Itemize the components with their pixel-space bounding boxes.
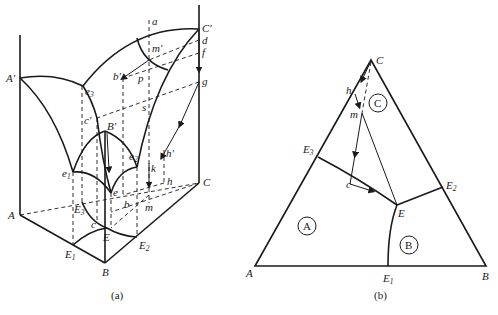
path-h-m (355, 94, 359, 106)
figure-b-labels: C A B h m c E E1 E2 E3 (b) (245, 54, 489, 302)
label-b-E1: E1 (382, 272, 393, 286)
label-b-B: B (482, 270, 489, 282)
label-A: A (7, 209, 15, 221)
tie-m-base (123, 183, 164, 195)
label-hprime: h' (166, 147, 175, 159)
caption-a: (a) (111, 289, 124, 302)
label-E2: E2 (138, 239, 150, 253)
label-bprime: b' (113, 70, 122, 82)
phase-diagram-canvas: A' C' B' a d f g m' b' p s c' h' k h m b… (0, 0, 498, 315)
boundary-E2-E (397, 187, 443, 205)
label-b-h: h (346, 84, 352, 96)
label-b-E2: E2 (445, 179, 457, 193)
path-C-h (362, 63, 370, 80)
label-C: C (203, 176, 211, 188)
label-e1: e1 (62, 167, 71, 181)
region-B-label: B (405, 239, 412, 251)
label-k: k (151, 162, 157, 174)
label-b: b (124, 198, 130, 210)
curve-Aprime-e1 (20, 78, 73, 172)
label-b-E3: E3 (302, 143, 314, 157)
tie-f-p (123, 53, 199, 78)
label-Bprime: B' (107, 120, 117, 132)
tie-g-cprime (97, 82, 199, 118)
base-curve-E1-E (73, 228, 107, 245)
region-A-label: A (303, 220, 311, 232)
label-a: a (152, 15, 158, 27)
label-g: g (202, 75, 208, 87)
label-E: E (102, 231, 110, 243)
path-mprime-bprime (123, 60, 149, 78)
label-b-C: C (376, 54, 384, 66)
label-B: B (102, 266, 109, 278)
label-E1: E1 (64, 248, 75, 262)
boundary-E3-E (318, 157, 397, 205)
label-p: p (137, 72, 144, 84)
base-edge-BC (105, 183, 199, 263)
figure-a-prism (20, 5, 199, 263)
triangle-ABC (255, 60, 486, 266)
label-cprime: c' (84, 114, 92, 126)
base-curve-E2-E (107, 228, 137, 237)
label-s: s (142, 101, 146, 113)
label-b-A: A (245, 267, 253, 279)
path-Bprime-down (107, 133, 109, 170)
label-Cprime: C' (202, 22, 212, 34)
region-C-label: C (374, 97, 381, 109)
label-h: h (167, 175, 173, 187)
path-c-E (350, 184, 372, 191)
label-mprime: m' (152, 42, 163, 54)
label-c: c (91, 218, 96, 230)
curve-Aprime-e3 (20, 76, 83, 86)
path-g-hprime (180, 82, 199, 125)
label-e3: e3 (85, 85, 94, 99)
figure-b-triangle: C A B (255, 60, 486, 266)
label-b-c: c (346, 178, 351, 190)
line-m-E (362, 113, 397, 205)
label-e: e (113, 186, 118, 198)
tie-base-b (111, 195, 149, 228)
caption-b: (b) (374, 289, 387, 302)
label-Aprime: A' (5, 72, 16, 84)
boundary-E1-E (388, 205, 397, 266)
label-b-m: m (350, 108, 358, 120)
label-d: d (202, 34, 208, 46)
label-f: f (202, 46, 207, 58)
label-e2: e2 (129, 150, 138, 164)
label-b-E: E (397, 207, 405, 219)
label-m: m (145, 201, 153, 213)
